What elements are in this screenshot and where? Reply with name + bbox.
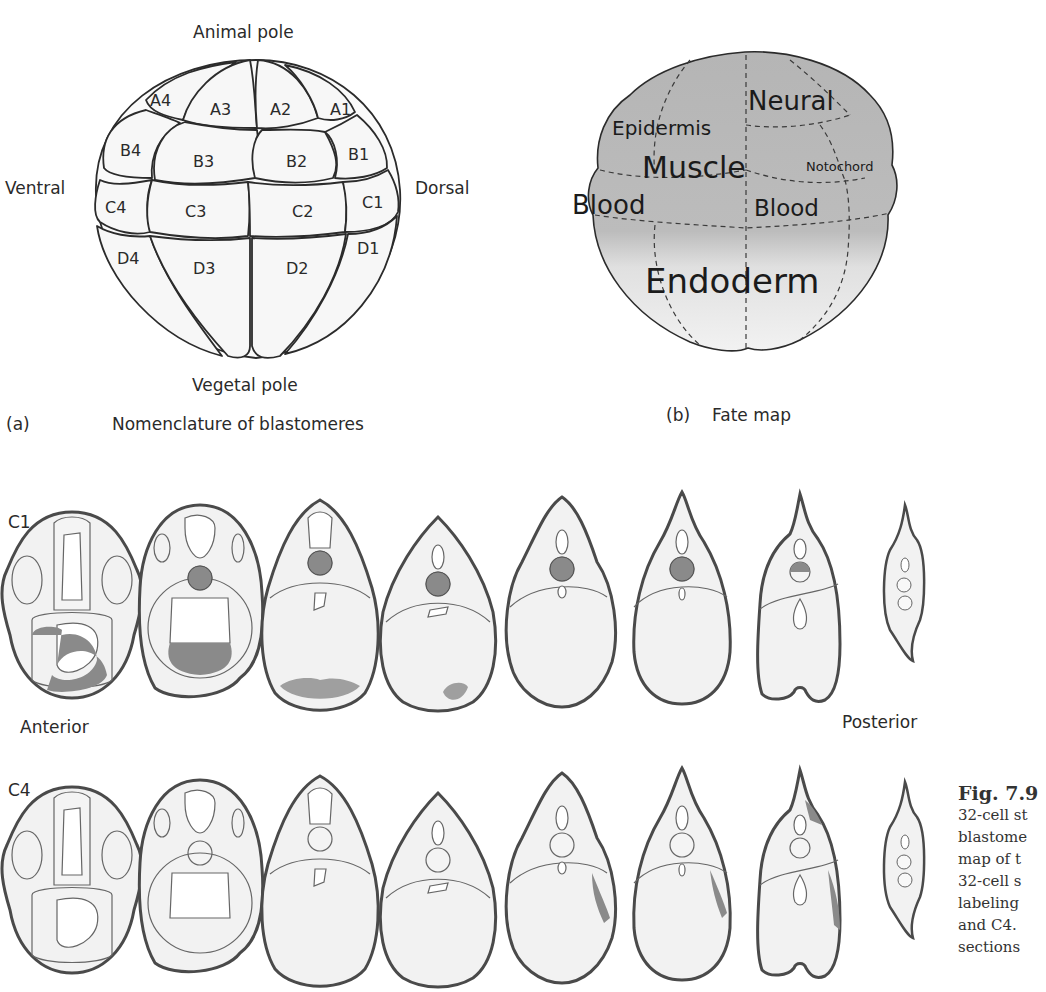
caption-line-4: 32-cell s <box>958 870 1038 892</box>
section-row-c4 <box>2 768 924 987</box>
caption-line-3: map of t <box>958 848 1038 870</box>
section-row-c1 <box>2 492 924 711</box>
caption-title: Fig. 7.9 <box>958 782 1038 804</box>
caption-line-6: and C4. <box>958 914 1038 936</box>
caption-line-7: sections <box>958 936 1038 958</box>
section-drawings <box>0 0 1046 992</box>
caption-line-5: labeling <box>958 892 1038 914</box>
figure-caption: Fig. 7.9 32-cell st blastome map of t 32… <box>958 782 1038 958</box>
caption-line-1: 32-cell st <box>958 804 1038 826</box>
caption-line-2: blastome <box>958 826 1038 848</box>
